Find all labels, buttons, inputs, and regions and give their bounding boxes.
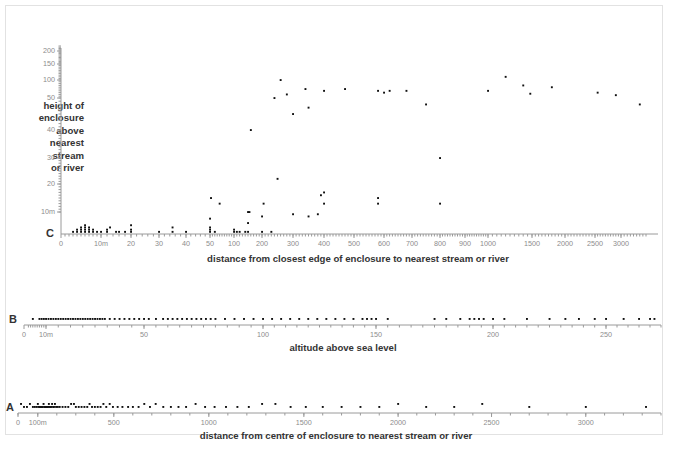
data-point xyxy=(101,318,103,320)
data-point xyxy=(112,406,114,408)
data-point xyxy=(83,406,85,408)
panel-c-xtick-label: 200 xyxy=(256,239,268,248)
data-point xyxy=(130,231,132,233)
data-point xyxy=(434,318,436,320)
data-point xyxy=(638,318,640,320)
data-point xyxy=(109,403,111,405)
panel-a-xtick-label: 1000 xyxy=(201,418,217,427)
data-point xyxy=(60,318,62,320)
data-point xyxy=(106,229,108,231)
data-point xyxy=(615,94,617,96)
data-point xyxy=(39,318,41,320)
panel-a-xtick-label: 3000 xyxy=(578,418,594,427)
data-point xyxy=(649,318,651,320)
data-point xyxy=(127,406,129,408)
data-point xyxy=(439,203,441,205)
panel-c-ytick-label: 10m xyxy=(41,207,55,216)
panel-b: 010m50100150200250Baltitude above sea le… xyxy=(6,301,664,356)
data-point xyxy=(76,229,78,231)
data-point xyxy=(94,406,96,408)
data-point xyxy=(29,403,31,405)
data-point xyxy=(387,318,389,320)
data-point xyxy=(639,104,641,106)
data-point xyxy=(76,231,78,233)
data-point xyxy=(73,403,75,405)
data-point xyxy=(92,318,94,320)
data-point xyxy=(72,231,74,233)
data-point xyxy=(243,318,245,320)
panel-a-xtick-label: 100m xyxy=(29,418,47,427)
data-point xyxy=(362,318,364,320)
data-point xyxy=(114,318,116,320)
data-point xyxy=(645,406,647,408)
data-point xyxy=(41,318,43,320)
data-point xyxy=(270,231,272,233)
data-point xyxy=(236,231,238,233)
data-point xyxy=(425,104,427,106)
panel-c: 010m203040501002003004005006007008009001… xyxy=(6,6,664,266)
data-point xyxy=(100,406,102,408)
data-point xyxy=(186,318,188,320)
data-point xyxy=(78,406,80,408)
data-point xyxy=(62,318,64,320)
data-point xyxy=(233,231,235,233)
data-point xyxy=(57,318,59,320)
panel-a-xtick-label: 2500 xyxy=(484,418,500,427)
data-point xyxy=(117,406,119,408)
data-point xyxy=(88,231,90,233)
data-point xyxy=(492,318,494,320)
data-point xyxy=(322,406,324,408)
data-point xyxy=(473,318,475,320)
data-point xyxy=(99,318,101,320)
data-point xyxy=(118,231,120,233)
data-point xyxy=(75,406,77,408)
data-point xyxy=(233,229,235,231)
data-point xyxy=(305,406,307,408)
data-point xyxy=(305,88,307,90)
data-point xyxy=(84,224,86,226)
data-point xyxy=(65,318,67,320)
data-point xyxy=(205,318,207,320)
data-point xyxy=(377,203,379,205)
data-point xyxy=(34,406,36,408)
data-point xyxy=(323,192,325,194)
data-point xyxy=(261,216,263,218)
data-point xyxy=(26,406,28,408)
data-point xyxy=(89,318,91,320)
panel-a-xtick-label: 2000 xyxy=(390,418,406,427)
data-point xyxy=(308,107,310,109)
panel-c-xtick-label: 2500 xyxy=(587,239,603,248)
data-point xyxy=(88,227,90,229)
data-point xyxy=(128,318,130,320)
data-point xyxy=(236,406,238,408)
data-point xyxy=(377,197,379,199)
data-point xyxy=(162,406,164,408)
data-point xyxy=(323,203,325,205)
panel-c-xtick-label: 400 xyxy=(318,239,330,248)
data-point xyxy=(84,231,86,233)
data-point xyxy=(55,318,57,320)
data-point xyxy=(234,318,236,320)
data-point xyxy=(214,231,216,233)
data-point xyxy=(239,231,241,233)
data-point xyxy=(121,406,123,408)
data-point xyxy=(453,406,455,408)
data-point xyxy=(138,318,140,320)
data-point xyxy=(67,318,69,320)
data-point xyxy=(274,97,276,99)
data-point xyxy=(87,318,89,320)
panel-b-xtick-label: 10m xyxy=(39,330,53,339)
data-point xyxy=(247,222,249,224)
panel-c-xtick-label: 100 xyxy=(228,239,240,248)
data-point xyxy=(483,318,485,320)
data-point xyxy=(138,406,140,408)
data-point xyxy=(51,403,53,405)
panel-c-xtick-label: 700 xyxy=(406,239,418,248)
data-point xyxy=(104,318,106,320)
panel-c-ytick-label: 50 xyxy=(47,93,55,102)
panel-c-xtick-label: 1000 xyxy=(480,239,496,248)
data-point xyxy=(67,406,69,408)
panel-b-xtick-label: 200 xyxy=(487,330,499,339)
data-point xyxy=(132,406,134,408)
data-point xyxy=(316,318,318,320)
